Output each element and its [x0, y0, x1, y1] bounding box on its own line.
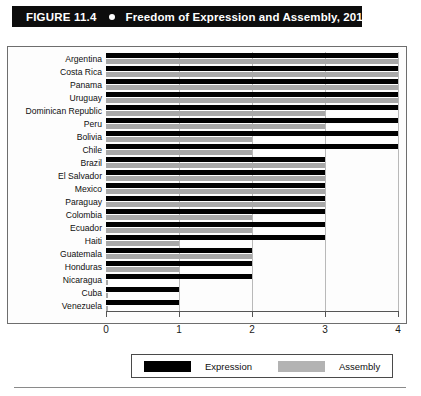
category-label: Paraguay — [65, 197, 102, 206]
legend-label-assembly: Assembly — [339, 361, 380, 372]
bar-expression — [106, 92, 398, 97]
bar-expression — [106, 170, 325, 175]
bar-expression — [106, 79, 398, 84]
bar-assembly — [106, 85, 398, 90]
bar-row: Paraguay — [106, 195, 398, 208]
bar-expression — [106, 66, 398, 71]
chart-legend: Expression Assembly — [131, 354, 393, 378]
category-label: Venezuela — [62, 301, 102, 310]
category-label: Ecuador — [70, 223, 102, 232]
bar-row: Chile — [106, 143, 398, 156]
bar-expression — [106, 274, 252, 279]
bar-expression — [106, 209, 325, 214]
bar-expression — [106, 196, 325, 201]
bar-row: Ecuador — [106, 221, 398, 234]
bar-row: Haiti — [106, 234, 398, 247]
bar-expression — [106, 287, 179, 292]
bar-expression — [106, 144, 398, 149]
bar-row: Honduras — [106, 260, 398, 273]
bullet-dot-icon — [109, 14, 115, 20]
legend-swatch-expression-icon — [144, 361, 191, 372]
category-label: Bolivia — [77, 132, 102, 141]
bar-row: Argentina — [106, 52, 398, 65]
bar-row: Cuba — [106, 286, 398, 299]
category-label: Uruguay — [70, 93, 102, 102]
category-label: Guatemala — [60, 249, 102, 258]
bar-rows: ArgentinaCosta RicaPanamaUruguayDominica… — [106, 52, 398, 312]
figure-title: Freedom of Expression and Assembly, 2019 — [126, 11, 370, 23]
category-label: Haiti — [85, 236, 102, 245]
bar-expression — [106, 248, 252, 253]
bar-assembly — [106, 267, 179, 272]
bar-assembly — [106, 293, 108, 298]
bar-expression — [106, 157, 325, 162]
page-divider-rule — [14, 387, 406, 388]
x-axis-tick-label: 3 — [322, 324, 328, 335]
category-label: Panama — [70, 80, 102, 89]
legend-item-expression: Expression — [144, 361, 252, 372]
category-label: El Salvador — [58, 171, 102, 180]
bar-expression — [106, 235, 325, 240]
bar-row: Colombia — [106, 208, 398, 221]
bar-row: Nicaragua — [106, 273, 398, 286]
bar-assembly — [106, 111, 325, 116]
bar-assembly — [106, 280, 108, 285]
bar-row: Bolivia — [106, 130, 398, 143]
legend-label-expression: Expression — [205, 361, 252, 372]
bar-row: Venezuela — [106, 299, 398, 312]
bar-row: Guatemala — [106, 247, 398, 260]
bar-assembly — [106, 176, 325, 181]
bar-assembly — [106, 202, 325, 207]
bar-assembly — [106, 124, 325, 129]
bar-assembly — [106, 228, 252, 233]
legend-item-assembly: Assembly — [278, 361, 380, 372]
category-label: Nicaragua — [63, 275, 102, 284]
bar-expression — [106, 118, 398, 123]
bar-expression — [106, 105, 398, 110]
category-label: Dominican Republic — [26, 106, 102, 115]
category-label: Brazil — [81, 158, 103, 167]
bar-assembly — [106, 189, 325, 194]
bar-assembly — [106, 137, 252, 142]
x-axis-tick-label: 2 — [249, 324, 255, 335]
bar-assembly — [106, 72, 398, 77]
category-label: Honduras — [65, 262, 102, 271]
category-label: Argentina — [65, 54, 102, 63]
category-label: Colombia — [66, 210, 102, 219]
bar-expression — [106, 222, 325, 227]
figure-title-banner: FIGURE 11.4 Freedom of Expression and As… — [12, 6, 362, 27]
bar-expression — [106, 183, 325, 188]
bar-row: Costa Rica — [106, 65, 398, 78]
category-label: Cuba — [81, 288, 102, 297]
legend-swatch-assembly-icon — [278, 361, 325, 372]
bar-expression — [106, 131, 398, 136]
bar-expression — [106, 53, 398, 58]
bar-row: Brazil — [106, 156, 398, 169]
bar-row: Peru — [106, 117, 398, 130]
bar-assembly — [106, 163, 325, 168]
category-label: Mexico — [75, 184, 102, 193]
x-axis-tick-label: 0 — [103, 324, 109, 335]
bar-row: Mexico — [106, 182, 398, 195]
bar-assembly — [106, 254, 252, 259]
figure-number: FIGURE 11.4 — [26, 11, 97, 23]
x-axis-tick-label: 1 — [176, 324, 182, 335]
gridline — [398, 52, 399, 312]
bar-row: Uruguay — [106, 91, 398, 104]
x-axis-tick — [398, 311, 399, 317]
bar-assembly — [106, 241, 179, 246]
plot-area: 01234 ArgentinaCosta RicaPanamaUruguayDo… — [106, 52, 398, 320]
x-axis-tick-label: 4 — [395, 324, 401, 335]
bar-expression — [106, 300, 179, 305]
bar-assembly — [106, 98, 398, 103]
bar-assembly — [106, 306, 108, 311]
bar-row: El Salvador — [106, 169, 398, 182]
bar-expression — [106, 261, 252, 266]
bar-assembly — [106, 215, 252, 220]
category-label: Costa Rica — [60, 67, 102, 76]
bar-assembly — [106, 150, 252, 155]
category-label: Chile — [82, 145, 102, 154]
bar-row: Dominican Republic — [106, 104, 398, 117]
bar-row: Panama — [106, 78, 398, 91]
bar-assembly — [106, 59, 398, 64]
